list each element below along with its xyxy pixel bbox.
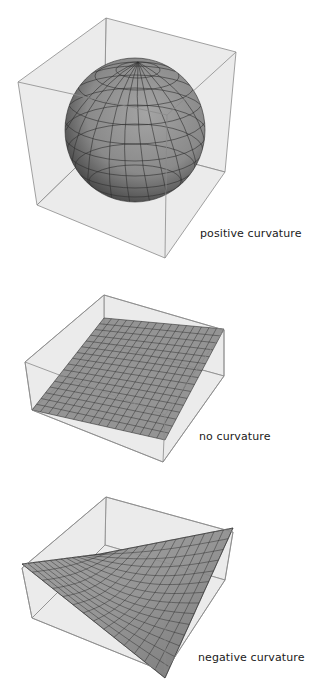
no-curvature-label: no curvature — [199, 430, 271, 443]
plane-figure — [25, 295, 224, 462]
positive-curvature-label: positive curvature — [200, 227, 302, 240]
curvature-diagram — [0, 0, 310, 692]
negative-curvature-label: negative curvature — [198, 651, 305, 664]
sphere-figure — [18, 18, 236, 258]
